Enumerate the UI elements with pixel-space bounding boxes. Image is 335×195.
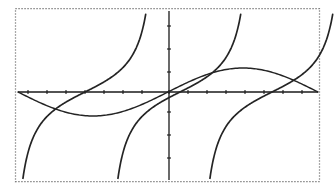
plot-frame (0, 0, 335, 195)
plot-border-dotted (16, 9, 320, 182)
tangent-branch-middle (118, 14, 241, 178)
math-plot-canvas (0, 0, 335, 195)
tangent-branch-left (23, 14, 146, 178)
tangent-branch-right (210, 14, 333, 178)
figure-root (0, 0, 335, 195)
